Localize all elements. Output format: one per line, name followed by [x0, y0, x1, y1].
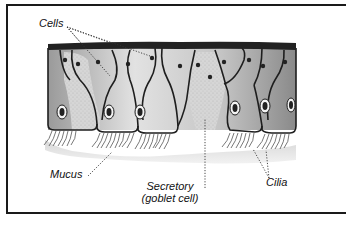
label-mucus: Mucus: [50, 168, 82, 180]
mucus-layer: [45, 140, 296, 164]
label-secretory: Secretory (goblet cell): [134, 180, 206, 204]
label-secretory-line2: (goblet cell): [134, 192, 206, 204]
label-secretory-line1: Secretory: [134, 180, 206, 192]
label-cells: Cells: [39, 17, 63, 29]
label-cilia: Cilia: [266, 176, 287, 188]
apical-surface: [48, 42, 296, 50]
